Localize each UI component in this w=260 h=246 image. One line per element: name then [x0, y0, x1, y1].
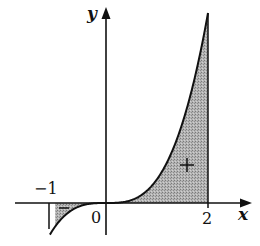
y-axis-arrow-icon — [102, 7, 111, 19]
tick-label-zero: 0 — [91, 208, 101, 227]
positive-shaded-region — [106, 13, 208, 203]
x-axis-label: x — [237, 204, 249, 224]
area-under-curve-figure: y x −1 0 2 — [0, 0, 260, 246]
y-axis-label: y — [86, 3, 98, 23]
plot-canvas: y x −1 0 2 — [0, 0, 260, 246]
tick-label-two: 2 — [202, 209, 212, 228]
tick-label-neg-one: −1 — [34, 179, 58, 198]
